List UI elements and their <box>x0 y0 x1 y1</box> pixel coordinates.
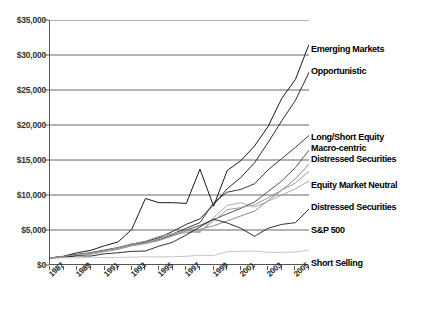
plot-area <box>49 20 308 265</box>
series-label: Emerging Markets <box>311 44 384 55</box>
series-line <box>50 181 309 258</box>
series-label: Distressed Securities <box>311 154 396 165</box>
x-axis: 1987198919911993199519971999200120032005 <box>49 266 311 300</box>
y-axis-tick-label: $30,000 <box>17 50 46 60</box>
series-line <box>50 150 309 258</box>
figure-caption <box>8 307 308 317</box>
series-lines <box>50 20 309 265</box>
y-axis-tick-label: $20,000 <box>17 120 46 130</box>
chart-figure: $35,000$30,000$25,000$20,000$15,000$10,0… <box>0 0 437 317</box>
series-line <box>50 45 309 259</box>
series-label: Distressed Securities <box>311 202 396 213</box>
y-axis-tick-label: $5,000 <box>21 225 46 235</box>
series-label: Equity Market Neutral <box>311 180 397 191</box>
y-axis-tick-label: $25,000 <box>17 85 46 95</box>
series-label: Macro-centric <box>311 143 366 154</box>
series-label: S&P 500 <box>311 225 345 236</box>
series-label-list: Emerging MarketsOpportunisticLong/Short … <box>311 0 437 300</box>
y-axis: $35,000$30,000$25,000$20,000$15,000$10,0… <box>0 20 46 265</box>
series-label: Short Selling <box>311 258 363 269</box>
series-line <box>50 171 309 258</box>
y-axis-tick-label: $15,000 <box>17 155 46 165</box>
y-axis-tick-label: $10,000 <box>17 190 46 200</box>
series-label: Opportunistic <box>311 66 366 77</box>
series-label: Long/Short Equity <box>311 132 384 143</box>
series-line <box>50 164 309 258</box>
y-axis-tick-label: $35,000 <box>17 15 46 25</box>
